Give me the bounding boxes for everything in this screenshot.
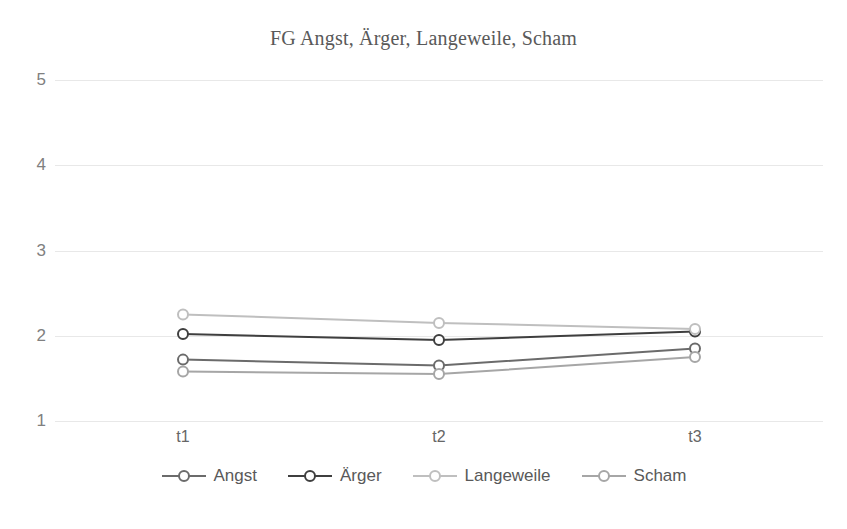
gridline-1 <box>55 421 823 422</box>
legend-marker-icon <box>412 468 458 484</box>
plot-area <box>55 80 823 421</box>
y-tick-label-2: 2 <box>0 326 46 346</box>
legend-item-scham[interactable]: Scham <box>581 466 687 486</box>
data-point <box>178 355 188 365</box>
series-angst <box>178 344 700 371</box>
x-axis: t1t2t3 <box>55 428 823 454</box>
data-point <box>434 335 444 345</box>
series-langeweile <box>178 309 700 333</box>
data-point <box>690 324 700 334</box>
series-layer <box>55 80 823 421</box>
x-tick-label-t3: t3 <box>688 428 701 446</box>
legend-marker-icon <box>581 468 627 484</box>
y-axis: 12345 <box>0 80 46 421</box>
data-point <box>690 352 700 362</box>
data-point <box>178 329 188 339</box>
x-tick-label-t1: t1 <box>176 428 189 446</box>
legend-item-ärger[interactable]: Ärger <box>287 466 382 486</box>
y-tick-label-1: 1 <box>0 411 46 431</box>
legend-item-angst[interactable]: Angst <box>161 466 257 486</box>
chart-title: FG Angst, Ärger, Langeweile, Scham <box>0 27 847 50</box>
legend-label: Scham <box>634 466 687 486</box>
data-point <box>178 309 188 319</box>
y-tick-label-3: 3 <box>0 241 46 261</box>
chart-legend: AngstÄrgerLangeweileScham <box>0 466 847 486</box>
legend-marker-icon <box>287 468 333 484</box>
legend-label: Ärger <box>340 466 382 486</box>
data-point <box>178 367 188 377</box>
legend-label: Angst <box>214 466 257 486</box>
data-point <box>434 318 444 328</box>
legend-marker-icon <box>161 468 207 484</box>
line-chart: FG Angst, Ärger, Langeweile, Scham 12345… <box>0 0 847 529</box>
legend-item-langeweile[interactable]: Langeweile <box>412 466 551 486</box>
y-tick-label-5: 5 <box>0 70 46 90</box>
series-ärger <box>178 326 700 345</box>
data-point <box>434 369 444 379</box>
x-tick-label-t2: t2 <box>432 428 445 446</box>
y-tick-label-4: 4 <box>0 155 46 175</box>
legend-label: Langeweile <box>465 466 551 486</box>
